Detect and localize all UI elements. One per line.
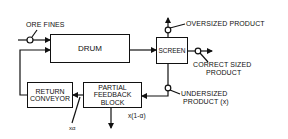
screen-label: SCREEN — [158, 47, 185, 55]
correct-sized-label-line2: PRODUCT — [206, 69, 241, 77]
return-conveyor-block: RETURN CONVEYOR — [27, 82, 73, 108]
partial-feedback-line3: BLOCK — [101, 99, 125, 107]
partial-feedback-line1: PARTIAL — [98, 84, 127, 92]
undersized-label-line1: UNDERSIZED — [181, 90, 228, 98]
drum-block: DRUM — [50, 34, 130, 63]
ore-fines-label: ORE FINES — [26, 21, 65, 29]
return-conveyor-line2: CONVEYOR — [30, 95, 70, 103]
partial-feedback-block: PARTIAL FEEDBACK BLOCK — [83, 82, 142, 108]
undersized-label-line2: PRODUCT (x) — [183, 98, 229, 106]
return-conveyor-line1: RETURN — [35, 88, 64, 96]
feedback-fraction-label: xα — [69, 124, 76, 132]
partial-feedback-line2: FEEDBACK — [94, 91, 132, 99]
oversized-product-label: OVERSIZED PRODUCT — [186, 20, 265, 28]
drum-label: DRUM — [78, 45, 102, 53]
removed-fraction-label: x(1-α) — [128, 112, 146, 120]
screen-block: SCREEN — [156, 37, 188, 64]
correct-sized-label-line1: CORRECT SIZED — [193, 61, 251, 69]
